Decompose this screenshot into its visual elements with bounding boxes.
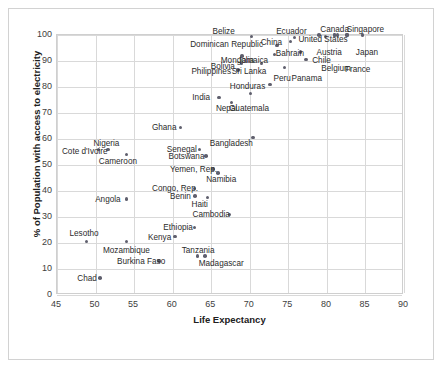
gridline-vertical [327,35,328,293]
data-point-label: Philippines [191,67,231,76]
data-point [249,92,253,96]
data-point [361,33,365,37]
data-point-label: Lesotho [69,228,98,237]
gridline-horizontal [57,191,402,192]
gridline-vertical [365,35,366,293]
data-point-label: France [345,64,370,73]
data-point-label: Yemen, Rep. [170,164,217,173]
data-point-label: China [261,37,282,46]
data-point [204,154,208,158]
data-point [193,194,197,198]
data-point [250,35,254,39]
data-point-label: Namibia [206,175,236,184]
data-point-label: Benin [170,192,191,201]
data-point-label: Madagascar [199,258,244,267]
data-point [98,276,102,280]
x-axis-tick-label: 85 [349,300,379,309]
gridline-horizontal [57,269,402,270]
data-point-label: Angola [95,194,121,203]
data-point [268,83,272,87]
data-point-label: Jamaica [238,55,269,64]
data-point-label: Bangladesh [210,138,253,147]
data-point [217,96,221,100]
gridline-vertical [57,35,58,293]
data-point-label: Burkina Faso [117,257,165,266]
x-axis-title: Life Expectancy [56,314,403,325]
data-point-label: Ethiopia [163,223,193,232]
data-point-label: Canada [320,24,349,33]
data-point-label: Mozambique [103,245,150,254]
data-point-label: Haiti [191,200,207,209]
data-point-label: Peru [274,73,291,82]
chart-container: BelizeEcuadorCanadaSingaporeUnited State… [8,8,434,360]
y-axis-tick-label: 10 [18,264,52,273]
x-axis-tick-label: 50 [80,300,110,309]
data-point-label: Honduras [230,81,266,90]
gridline-vertical [404,35,405,293]
x-axis-tick-label: 65 [195,300,225,309]
x-axis-tick-label: 90 [388,300,418,309]
x-axis-ticks: 45505560657075808590 [56,298,403,312]
data-point-label: Dominican Republic [190,40,263,49]
data-point [173,235,177,239]
data-point-label: Chad [77,274,97,283]
data-point [289,40,293,44]
x-axis-tick-label: 60 [157,300,187,309]
data-point-label: Panama [292,73,323,82]
gridline-horizontal [57,295,402,296]
data-point-label: Singapore [347,24,384,33]
x-axis-tick-label: 45 [41,300,71,309]
gridline-horizontal [57,113,402,114]
gridline-horizontal [57,243,402,244]
x-axis-tick-label: 75 [272,300,302,309]
y-axis-tick-label: 0 [18,290,52,299]
data-point-label: Cambodia [193,210,230,219]
data-point-label: Ghana [152,123,177,132]
data-point-label: Nepal [216,103,237,112]
data-point-label: United States [298,34,347,43]
data-point-label: Botswana [169,151,205,160]
gridline-vertical [96,35,97,293]
data-point-label: Belize [212,27,234,36]
plot-area: BelizeEcuadorCanadaSingaporeUnited State… [56,34,403,294]
data-point [125,197,129,201]
x-axis-tick-label: 55 [118,300,148,309]
data-point-label: Tanzania [182,245,215,254]
y-axis-title: % of Population with access to electrici… [32,24,42,264]
data-point-label: Bahrain [276,49,304,58]
x-axis-tick-label: 70 [234,300,264,309]
data-point-label: Cote d'Ivoire [62,146,108,155]
data-point-label: Kenya [148,232,171,241]
data-point-label: Japan [356,47,378,56]
data-point [293,36,297,40]
data-point-label: India [192,93,210,102]
data-point-label: Cameroon [99,157,137,166]
data-point [283,66,287,70]
data-point [179,126,183,130]
data-point-label: Sri Lanka [232,67,267,76]
x-axis-tick-label: 80 [311,300,341,309]
